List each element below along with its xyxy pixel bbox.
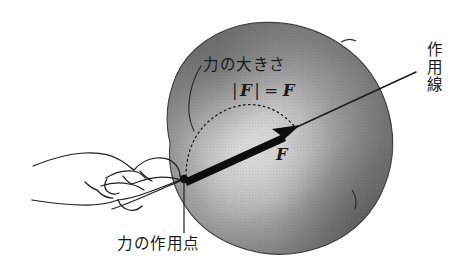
force-diagram-figure: 力の大きさ |F|=F F 作用線 力の作用点	[0, 0, 469, 277]
diagram-canvas	[0, 0, 469, 277]
hand-illustration	[32, 153, 184, 210]
ball-surface-mark-top	[341, 40, 356, 42]
